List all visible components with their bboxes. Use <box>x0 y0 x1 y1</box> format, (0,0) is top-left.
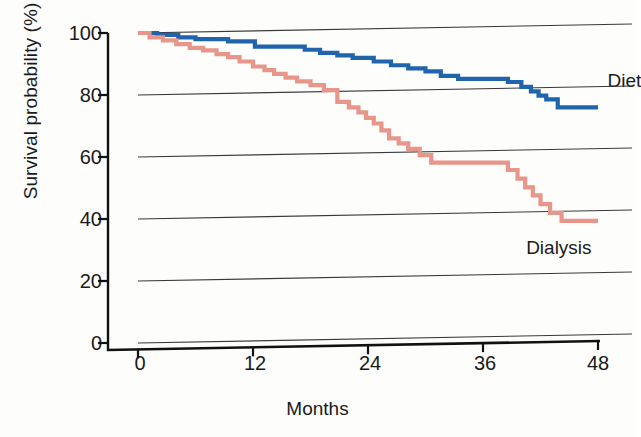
gridlines <box>138 24 632 343</box>
series-curves <box>138 33 598 221</box>
axis-lines <box>107 33 600 351</box>
